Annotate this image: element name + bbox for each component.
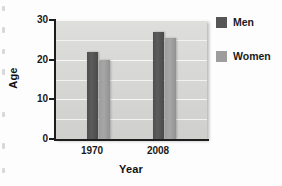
gridline-30 <box>55 20 207 21</box>
y-axis-title: Age <box>7 58 19 98</box>
legend-label-women: Women <box>233 50 271 62</box>
scan-artifact <box>2 143 5 149</box>
legend-item-women: Women <box>216 50 280 62</box>
scan-artifact <box>2 27 5 33</box>
x-tick-label-1970: 1970 <box>62 145 122 156</box>
scan-artifact <box>2 112 5 117</box>
y-tick-label-10: 10 <box>24 94 48 104</box>
chart-figure: 30 20 10 0 Age 1970 2008 Year Men Women <box>0 0 282 186</box>
gridline-10 <box>55 99 207 100</box>
bar-men-2008 <box>153 32 164 139</box>
plot-area <box>55 20 207 139</box>
scan-artifact <box>2 168 5 173</box>
gridline-20 <box>55 60 207 61</box>
y-tick-10 <box>49 98 55 100</box>
legend-swatch-women <box>216 51 227 62</box>
bar-women-1970 <box>99 60 110 139</box>
x-axis-line <box>54 139 209 141</box>
y-axis-line <box>54 19 56 140</box>
gridline-25 <box>55 40 207 41</box>
gridline-15 <box>55 80 207 81</box>
x-axis-title: Year <box>55 163 207 175</box>
y-tick-label-30: 30 <box>24 15 48 25</box>
scan-artifact <box>2 69 5 75</box>
legend-item-men: Men <box>216 16 280 28</box>
gridline-5 <box>55 119 207 120</box>
y-tick-label-0: 0 <box>24 134 48 144</box>
y-tick-label-20: 20 <box>24 55 48 65</box>
y-tick-30 <box>49 19 55 21</box>
y-tick-labels: 30 20 10 0 <box>22 0 48 186</box>
chart-legend: Men Women <box>216 16 280 84</box>
legend-swatch-men <box>216 17 227 28</box>
bar-women-2008 <box>165 38 176 139</box>
bar-men-1970 <box>87 52 98 139</box>
y-tick-20 <box>49 59 55 61</box>
legend-label-men: Men <box>233 16 254 28</box>
x-tick-label-2008: 2008 <box>128 145 188 156</box>
scan-artifact <box>2 6 5 11</box>
y-tick-0 <box>49 138 55 140</box>
scan-artifact <box>2 49 5 54</box>
